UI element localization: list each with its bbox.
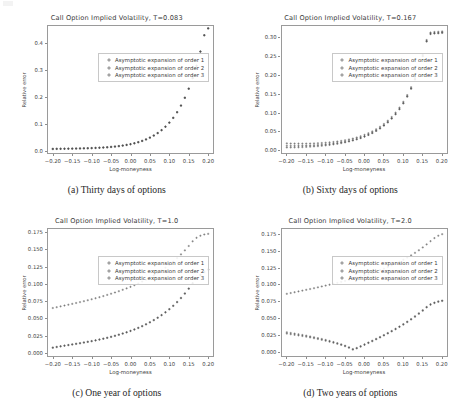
series-layer-a [47,25,214,154]
caption-a: (a) Thirty days of options [0,184,234,195]
series-1 [52,27,210,150]
panel-a: Call Option Implied Volatility, T=0.0830… [0,0,234,203]
x-tick-mark [208,357,209,359]
legend-label: Asymptotic expansion of order 3 [115,72,204,78]
caption-b: (b) Sixty days of options [234,184,467,195]
series-layer-c [47,228,214,357]
plus-marker-icon [336,275,349,281]
x-axis-label-c: Log-moneyness [47,369,214,375]
legend-label: Asymptotic expansion of order 1 [349,260,438,266]
y-axis-label-a: Relative error [20,25,26,154]
legend-item[interactable]: Asymptotic expansion of order 1 [336,57,438,64]
legend-b: Asymptotic expansion of order 1Asymptoti… [332,53,443,82]
x-tick-label: 0.05 [378,158,390,164]
x-tick-label: 0.20 [202,158,214,164]
legend-label: Asymptotic expansion of order 2 [115,268,204,274]
plus-marker-icon [336,57,349,63]
x-tick-mark [286,154,287,156]
x-tick-label: 0.15 [183,361,195,367]
x-tick-mark [364,357,365,359]
legend-item[interactable]: Asymptotic expansion of order 3 [102,71,204,78]
x-tick-label: −0.05 [103,361,119,367]
x-tick-label: 0.00 [358,361,370,367]
legend-c: Asymptotic expansion of order 1Asymptoti… [98,256,209,285]
x-tick-label: −0.10 [84,158,100,164]
x-tick-label: −0.15 [64,158,80,164]
legend-label: Asymptotic expansion of order 2 [115,65,204,71]
x-tick-mark [403,357,404,359]
x-tick-label: 0.10 [397,158,409,164]
legend-item[interactable]: Asymptotic expansion of order 2 [102,267,204,274]
x-tick-mark [442,154,443,156]
x-tick-mark [92,154,93,156]
x-tick-label: −0.15 [64,361,80,367]
x-tick-label: 0.00 [125,361,137,367]
legend-item[interactable]: Asymptotic expansion of order 3 [336,71,438,78]
caption-c: (c) One year of options [0,387,234,398]
chart-title-b: Call Option Implied Volatility, T=0.167 [234,14,467,22]
plus-marker-icon [336,260,349,266]
legend-item[interactable]: Asymptotic expansion of order 2 [336,64,438,71]
x-tick-mark [325,357,326,359]
x-tick-mark [72,154,73,156]
legend-item[interactable]: Asymptotic expansion of order 2 [102,64,204,71]
x-tick-label: 0.20 [436,361,448,367]
x-tick-mark [422,357,423,359]
chart-title-d: Call Option Implied Volatility, T=2.0 [234,217,467,225]
legend-item[interactable]: Asymptotic expansion of order 1 [102,260,204,267]
x-tick-label: 0.15 [416,158,428,164]
series-3 [285,300,443,351]
x-tick-mark [383,154,384,156]
x-tick-mark [53,357,54,359]
caption-d: (d) Two years of options [234,387,467,398]
x-tick-mark [131,357,132,359]
x-axis-label-d: Log-moneyness [281,369,448,375]
x-tick-label: 0.10 [163,158,175,164]
x-tick-mark [169,357,170,359]
plot-area-a: Asymptotic expansion of order 1Asymptoti… [47,25,214,154]
legend-item[interactable]: Asymptotic expansion of order 1 [336,260,438,267]
x-tick-mark [306,357,307,359]
x-tick-mark [364,154,365,156]
plus-marker-icon [336,72,349,78]
x-tick-mark [383,357,384,359]
legend-label: Asymptotic expansion of order 3 [115,275,204,281]
plus-marker-icon [102,268,115,274]
x-tick-mark [111,154,112,156]
legend-label: Asymptotic expansion of order 3 [349,72,438,78]
plus-marker-icon [102,57,115,63]
plot-area-d: Asymptotic expansion of order 1Asymptoti… [281,228,448,357]
series-2 [52,27,210,150]
legend-label: Asymptotic expansion of order 1 [115,260,204,266]
y-axis-label-b: Relative error [254,25,260,154]
x-tick-mark [286,357,287,359]
x-tick-label: −0.10 [84,361,100,367]
plot-area-b: Asymptotic expansion of order 1Asymptoti… [281,25,448,154]
y-axis-label-c: Relative error [20,228,26,357]
plus-marker-icon [336,65,349,71]
panel-c: Call Option Implied Volatility, T=1.00.0… [0,203,234,406]
x-tick-mark [111,357,112,359]
x-tick-label: −0.15 [298,158,314,164]
x-tick-mark [306,154,307,156]
chart-panel-c: Call Option Implied Volatility, T=1.00.0… [0,203,234,406]
x-tick-label: −0.05 [336,361,352,367]
chart-title-a: Call Option Implied Volatility, T=0.083 [0,14,234,22]
x-tick-label: 0.15 [183,158,195,164]
chart-panel-d: Call Option Implied Volatility, T=2.00.0… [234,203,467,406]
legend-item[interactable]: Asymptotic expansion of order 2 [336,267,438,274]
legend-label: Asymptotic expansion of order 1 [349,57,438,63]
x-tick-label: −0.10 [317,361,333,367]
x-tick-mark [422,154,423,156]
series-2 [285,32,443,147]
x-tick-label: 0.05 [144,158,156,164]
legend-item[interactable]: Asymptotic expansion of order 1 [102,57,204,64]
y-axis-label-d: Relative error [254,228,260,357]
x-tick-label: −0.05 [336,158,352,164]
x-tick-label: 0.05 [144,361,156,367]
x-tick-label: 0.05 [378,361,390,367]
x-axis-label-b: Log-moneyness [281,166,448,172]
series-3 [52,27,210,150]
legend-item[interactable]: Asymptotic expansion of order 3 [336,274,438,281]
legend-item[interactable]: Asymptotic expansion of order 3 [102,274,204,281]
